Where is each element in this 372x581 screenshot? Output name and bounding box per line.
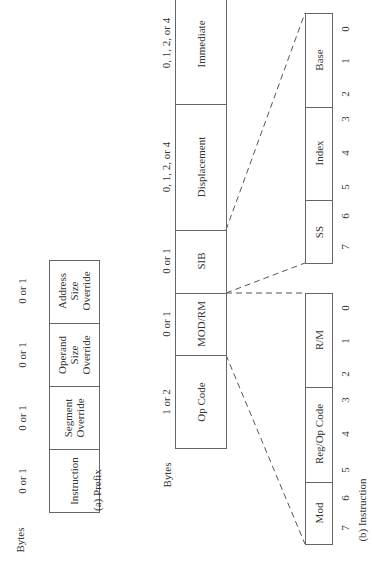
sib-bit-1: 1 bbox=[339, 58, 351, 64]
sib-bit-2: 2 bbox=[339, 91, 351, 97]
prefix-field-address-size-override: Address Size Override bbox=[56, 271, 92, 310]
modrm-bit-4: 4 bbox=[339, 431, 351, 437]
instr-field-opcode: Op Code bbox=[195, 382, 207, 421]
prefix-bytes-label: Bytes bbox=[14, 527, 26, 552]
sib-divider bbox=[305, 107, 333, 108]
instruction-divider bbox=[175, 230, 227, 231]
sib-bit-4: 4 bbox=[339, 150, 351, 156]
prefix-divider bbox=[49, 386, 100, 387]
instruction-caption: (b) Instruction bbox=[356, 478, 368, 541]
prefix-bytes-segment: 0 or 1 bbox=[16, 405, 28, 431]
modrm-bit-5: 5 bbox=[339, 467, 351, 473]
modrm-field-mod: Mod bbox=[313, 503, 325, 524]
prefix-divider bbox=[49, 323, 100, 324]
sib-field-index: Index bbox=[313, 140, 325, 165]
prefix-field-operand-size-override: Operand Size Override bbox=[56, 335, 92, 374]
modrm-field-reg-opcode: Reg/Op Code bbox=[313, 404, 325, 464]
prefix-caption: (a) Prefix bbox=[91, 469, 103, 511]
instruction-divider bbox=[175, 293, 227, 294]
modrm-divider bbox=[305, 482, 333, 483]
modrm-bit-7: 7 bbox=[339, 525, 351, 531]
prefix-bytes-operand: 0 or 1 bbox=[16, 342, 28, 368]
modrm-bit-0: 0 bbox=[339, 305, 351, 311]
instr-field-immediate: Immediate bbox=[195, 20, 207, 67]
sib-bit-0: 0 bbox=[339, 26, 351, 32]
instr-bytes-displacement: 0, 1, 2, or 4 bbox=[160, 142, 172, 192]
instr-bytes-opcode: 1 or 2 bbox=[160, 389, 172, 415]
sib-field-ss: SS bbox=[313, 226, 325, 238]
sib-divider bbox=[305, 200, 333, 201]
instr-field-sib: SIB bbox=[195, 252, 207, 269]
modrm-bit-1: 1 bbox=[339, 338, 351, 344]
sib-bit-5: 5 bbox=[339, 184, 351, 190]
sib-field-base: Base bbox=[313, 49, 325, 70]
sib-bit-3: 3 bbox=[339, 116, 351, 122]
sib-connector-bottom bbox=[226, 263, 305, 293]
modrm-divider bbox=[305, 387, 333, 388]
modrm-bit-2: 2 bbox=[339, 371, 351, 377]
instr-field-modrm: MOD/RM bbox=[195, 301, 207, 347]
modrm-connector-bottom bbox=[226, 355, 305, 544]
prefix-field-instruction: Instruction bbox=[68, 457, 80, 505]
modrm-bit-3: 3 bbox=[339, 397, 351, 403]
sib-bit-7: 7 bbox=[339, 244, 351, 250]
prefix-bytes-address: 0 or 1 bbox=[16, 278, 28, 304]
prefix-divider bbox=[49, 449, 100, 450]
sib-connector-top bbox=[226, 13, 305, 230]
instr-bytes-label: Bytes bbox=[161, 462, 173, 487]
modrm-bit-6: 6 bbox=[339, 495, 351, 501]
instruction-divider bbox=[175, 355, 227, 356]
instruction-divider bbox=[175, 104, 227, 105]
instr-bytes-modrm: 0 or 1 bbox=[160, 311, 172, 337]
instr-bytes-sib: 0 or 1 bbox=[160, 248, 172, 274]
prefix-field-segment-override: Segment Override bbox=[62, 398, 86, 437]
prefix-bytes-instruction: 0 or 1 bbox=[16, 468, 28, 494]
modrm-field-rm: R/M bbox=[313, 330, 325, 350]
instr-bytes-immediate: 0, 1, 2, or 4 bbox=[160, 18, 172, 68]
sib-bit-6: 6 bbox=[339, 213, 351, 219]
instr-field-displacement: Displacement bbox=[195, 137, 207, 197]
